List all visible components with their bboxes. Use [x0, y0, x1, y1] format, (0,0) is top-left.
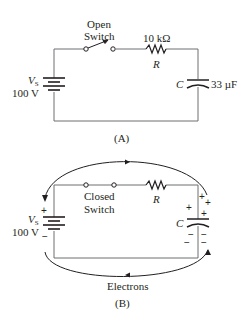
label-line: Switch — [84, 203, 115, 216]
capacitor-plus-sign: + — [205, 198, 211, 208]
label-line: Open — [84, 18, 114, 30]
switch-label-closed: Closed Switch — [84, 190, 115, 216]
resistor-symbol-label: R — [153, 58, 160, 70]
arrowhead-icon — [42, 160, 211, 278]
capacitor-plus-sign: + — [199, 192, 205, 202]
capacitor-symbol-label: C — [176, 78, 183, 90]
source-value-label: 100 V — [12, 226, 39, 238]
electron-flow-arrows — [45, 162, 208, 277]
capacitor-plus-sign: + — [186, 203, 192, 213]
capacitor-minus-sign: − — [201, 238, 207, 248]
resistor-icon — [146, 181, 166, 189]
battery-icon — [43, 78, 65, 90]
v-symbol: V — [28, 74, 35, 86]
capacitor-symbol-label: C — [176, 217, 183, 229]
circuit-diagrams — [0, 0, 248, 323]
battery-plus-sign: + — [41, 206, 47, 216]
v-symbol: V — [28, 213, 35, 225]
battery-minus-sign: − — [42, 232, 48, 242]
resistor-icon — [146, 45, 166, 53]
capacitor-icon — [187, 219, 209, 227]
capacitor-minus-sign: − — [184, 238, 190, 248]
caption-b: (B) — [115, 297, 130, 309]
switch-label-open: Open Switch — [84, 18, 114, 42]
capacitor-icon — [187, 80, 209, 88]
battery-icon — [43, 217, 65, 229]
resistor-symbol-label: R — [153, 193, 160, 205]
capacitor-plus-sign: + — [201, 209, 207, 219]
capacitor-value-label: 33 µF — [211, 78, 237, 90]
electrons-label: Electrons — [107, 280, 149, 292]
source-value-label: 100 V — [12, 87, 39, 99]
label-line: Switch — [84, 30, 114, 42]
resistor-value-label: 10 kΩ — [143, 32, 170, 44]
caption-a: (A) — [114, 132, 129, 144]
label-line: Closed — [84, 190, 115, 203]
